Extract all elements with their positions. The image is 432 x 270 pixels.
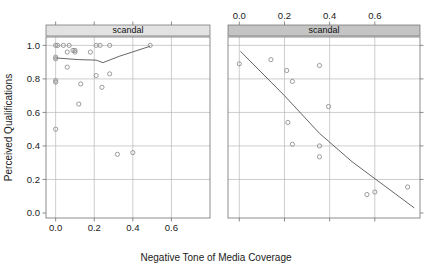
ytick-labels: 0.00.20.40.60.81.0 xyxy=(27,40,40,219)
data-point xyxy=(317,63,321,67)
ytick-label: 0.8 xyxy=(27,73,40,84)
ticks-1 xyxy=(239,22,423,222)
ytick-label: 1.0 xyxy=(27,40,40,51)
trend-line xyxy=(240,51,414,208)
xtick-labels-0: 0.00.20.40.6 xyxy=(49,222,178,233)
ytick-label: 0.2 xyxy=(27,174,40,185)
xtick-label: 0.4 xyxy=(323,10,336,21)
data-point xyxy=(269,58,273,62)
xtick-label: 0.4 xyxy=(126,222,139,233)
panel-strip-0: scandal xyxy=(46,25,210,36)
data-point xyxy=(317,155,321,159)
xtick-label: 0.0 xyxy=(49,222,62,233)
x-axis-title: Negative Tone of Media Coverage xyxy=(140,252,291,263)
data-point xyxy=(65,50,69,54)
chart-canvas: scandal0.00.20.40.60.00.20.40.60.81.0sca… xyxy=(0,0,432,270)
scandal-panel: scandal0.00.20.40.6 xyxy=(228,10,424,222)
ytick-label: 0.6 xyxy=(27,107,40,118)
data-point xyxy=(285,68,289,72)
data-point xyxy=(108,72,112,76)
no-scandal-panel: scandal0.00.20.40.60.00.20.40.60.81.0 xyxy=(27,22,210,234)
ytick-label: 0.0 xyxy=(27,207,40,218)
xtick-label: 0.2 xyxy=(278,10,291,21)
data-point xyxy=(77,102,81,106)
data-layer-0 xyxy=(54,43,153,156)
gridlines-0 xyxy=(46,37,210,218)
data-point xyxy=(405,185,409,189)
data-point xyxy=(286,120,290,124)
data-layer-1 xyxy=(237,51,414,208)
ytick-label: 0.4 xyxy=(27,140,40,151)
data-point xyxy=(290,79,294,83)
data-point xyxy=(365,192,369,196)
data-point xyxy=(65,65,69,69)
data-point xyxy=(88,50,92,54)
data-point xyxy=(100,85,104,89)
data-point xyxy=(94,73,98,77)
lattice-scatter-chart: scandal0.00.20.40.60.00.20.40.60.81.0sca… xyxy=(0,0,432,270)
xtick-labels-1: 0.00.20.40.6 xyxy=(233,10,382,21)
panel-border-0 xyxy=(46,37,210,218)
strip-label-1: scandal xyxy=(308,25,339,35)
xtick-label: 0.2 xyxy=(88,222,101,233)
data-point xyxy=(115,152,119,156)
trend-line xyxy=(56,46,151,62)
ticks-0 xyxy=(43,22,172,222)
xtick-label: 0.6 xyxy=(368,10,381,21)
panel-strip-1: scandal xyxy=(228,25,420,36)
xtick-label: 0.0 xyxy=(233,10,246,21)
y-axis-title: Perceived Qualifications xyxy=(3,74,14,181)
data-point xyxy=(79,82,83,86)
strip-label-0: scandal xyxy=(112,25,143,35)
xtick-label: 0.6 xyxy=(165,222,178,233)
